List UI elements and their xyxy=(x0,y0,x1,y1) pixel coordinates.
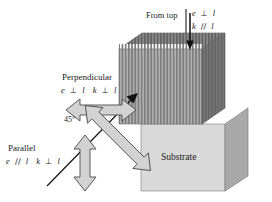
perp-field-1: e xyxy=(61,85,65,95)
parallel-title: Parallel xyxy=(8,143,36,153)
parallel-formulas: e∕∕lk⊥l xyxy=(6,157,60,167)
perpendicular-formulas: e⊥lk⊥l xyxy=(61,86,116,96)
from-top-label: From top xyxy=(146,11,177,21)
from-top-field-1: e xyxy=(192,8,196,18)
par-axis-1: l xyxy=(26,156,29,166)
from-top-field-2: k xyxy=(192,21,196,31)
substrate-side-face xyxy=(225,108,248,191)
figure-canvas: From top e⊥l k∕∕l Perpendicular e⊥lk⊥l P… xyxy=(0,0,272,202)
perp-axis-2: l xyxy=(114,85,117,95)
vertical-double-arrow-icon xyxy=(74,135,96,191)
par-axis-2: l xyxy=(58,156,61,166)
angle-label: 45° xyxy=(64,116,75,125)
perp-field-2: k xyxy=(93,85,97,95)
from-top-formula-1: e⊥l xyxy=(192,9,215,19)
substrate-label: Substrate xyxy=(161,152,196,163)
perpendicular-title: Perpendicular xyxy=(62,72,112,82)
film-side-face-shading xyxy=(202,33,225,124)
perp-symbol-1: ⊥ xyxy=(70,87,77,96)
from-top-formula-2: k∕∕l xyxy=(192,22,214,32)
par-symbol-2: ⊥ xyxy=(45,158,52,167)
par-field-1: e xyxy=(6,156,10,166)
perp-symbol-2: ⊥ xyxy=(102,87,109,96)
perp-symbol-top: ⊥ xyxy=(201,10,208,19)
parallel-symbol-top: ∕∕ xyxy=(201,23,206,32)
from-top-axis-1: l xyxy=(213,8,215,18)
diagram-svg xyxy=(0,0,272,202)
par-field-2: k xyxy=(36,156,40,166)
from-top-axis-2: l xyxy=(211,21,213,31)
par-symbol-1: ∕∕ xyxy=(15,158,21,167)
perp-axis-1: l xyxy=(82,85,85,95)
